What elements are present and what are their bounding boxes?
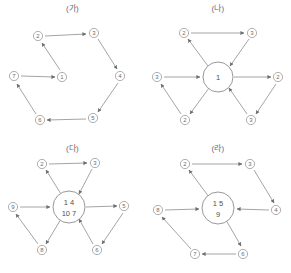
edge-3-to-4 <box>98 39 117 69</box>
edge-4-to-5 <box>98 83 118 112</box>
node-2-right[interactable]: 2 <box>273 72 282 81</box>
edge-8bottom-to-9left <box>16 214 38 244</box>
hub-node[interactable]: 1 5 9 <box>202 192 234 224</box>
edge-hub-to-5right <box>86 206 117 207</box>
edge-1-to-2 <box>42 43 60 70</box>
hub-label-line-2: 9 <box>216 210 220 219</box>
node-2-bottom-left[interactable]: 2 <box>180 115 189 124</box>
edge-3top-to-hub <box>230 39 249 66</box>
node-5-right[interactable]: 5 <box>119 201 128 210</box>
node-3[interactable]: 3 <box>89 28 98 37</box>
node-3-top-right[interactable]: 3 <box>247 28 256 37</box>
hub-label-line-2: 10 7 <box>62 209 77 218</box>
edge-hub-to-8bottom <box>46 219 61 244</box>
node-1[interactable]: 1 <box>57 72 66 81</box>
node-9-left[interactable]: 9 <box>8 202 17 211</box>
edge-hub-to-2top <box>46 170 61 194</box>
edge-5-to-6 <box>47 119 86 120</box>
panel-da: (다) 1 4 10 7 <box>0 140 145 273</box>
hub-label-line-1: 1 <box>216 73 220 82</box>
diagram-ra: 1 5 9 2 3 8 4 7 <box>145 140 291 273</box>
node-3-bottom-right[interactable]: 3 <box>246 115 255 124</box>
node-2-top-left[interactable]: 2 <box>179 28 188 37</box>
edge-hub-to-2top <box>188 39 208 66</box>
hub-node[interactable]: 1 <box>203 62 233 92</box>
node-8-bottom-left[interactable]: 8 <box>37 245 46 254</box>
diagram-da: 1 4 10 7 2 3 9 5 8 <box>0 140 145 273</box>
edge-2bottom-to-3left <box>161 84 181 114</box>
edge-hub-to-2top <box>189 170 209 197</box>
edge-hub-to-6bottom <box>226 220 241 246</box>
node-6[interactable]: 6 <box>35 115 44 124</box>
node-6-bottom-right[interactable]: 6 <box>92 245 101 254</box>
edge-8left-to-hub <box>165 209 199 210</box>
edge-2-to-3 <box>45 34 86 36</box>
edge-3bottom-to-hub <box>229 88 247 114</box>
hub-node[interactable]: 1 4 10 7 <box>53 191 85 223</box>
node-4[interactable]: 4 <box>115 71 124 80</box>
edge-5right-to-6bottom <box>102 213 123 244</box>
edge-hub-to-2bottom <box>190 88 209 114</box>
edge-3top-to-hub <box>79 169 92 194</box>
node-7-bottom-left[interactable]: 7 <box>190 249 199 258</box>
edge-7bottom-to-8left <box>162 217 191 249</box>
node-2-top-left[interactable]: 2 <box>37 159 46 168</box>
node-3-left[interactable]: 3 <box>152 72 161 81</box>
panel-ra: (라) 1 5 9 <box>145 140 291 273</box>
node-2[interactable]: 2 <box>33 31 42 40</box>
node-2-top-left[interactable]: 2 <box>180 159 189 168</box>
node-6-bottom-right[interactable]: 6 <box>238 249 247 258</box>
edge-4right-to-hub <box>237 209 269 210</box>
figure-grid: (가) 1 2 <box>0 0 291 273</box>
panel-na: (나) 1 2 <box>145 0 291 140</box>
hub-label-line-1: 1 4 <box>64 198 74 207</box>
edge-3top-to-4right <box>254 170 274 203</box>
node-5[interactable]: 5 <box>88 113 97 122</box>
edge-2-to-3-top <box>49 163 87 164</box>
diagram-na: 1 2 3 3 2 2 <box>145 0 291 140</box>
node-3-top-right[interactable]: 3 <box>245 159 254 168</box>
edge-7-to-1 <box>21 76 55 77</box>
hub-label-line-1: 1 5 <box>213 199 223 208</box>
node-4-right[interactable]: 4 <box>271 205 280 214</box>
node-7[interactable]: 7 <box>9 71 18 80</box>
edge-6-to-7 <box>17 84 36 114</box>
edge-6bottom-to-hub <box>79 219 93 244</box>
edge-2right-to-3bottom <box>256 84 276 114</box>
node-8-left[interactable]: 8 <box>153 205 162 214</box>
node-3-top-right[interactable]: 3 <box>90 158 99 167</box>
diagram-ga: 1 2 3 4 5 6 7 <box>0 0 145 140</box>
panel-ga: (가) 1 2 <box>0 0 145 140</box>
